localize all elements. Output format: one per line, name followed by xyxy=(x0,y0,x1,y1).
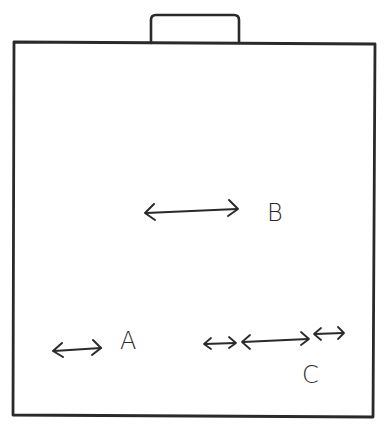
arrow-b xyxy=(145,200,238,220)
diagram-canvas: B A C xyxy=(0,0,387,430)
arrow-c-3 xyxy=(314,327,344,340)
label-b: B xyxy=(267,199,283,227)
arrow-c-1 xyxy=(204,337,236,349)
label-a: A xyxy=(120,327,136,355)
container-tab xyxy=(151,15,239,43)
arrow-a xyxy=(53,340,101,357)
container-box xyxy=(13,42,375,417)
label-c: C xyxy=(302,361,319,389)
arrow-c-2 xyxy=(242,332,309,349)
